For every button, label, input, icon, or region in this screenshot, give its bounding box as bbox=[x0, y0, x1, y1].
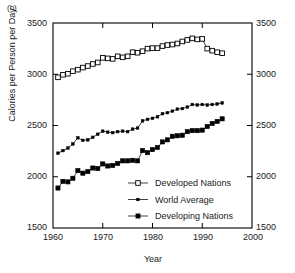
legend-label-1: Developed Nations bbox=[155, 178, 232, 188]
series-1 bbox=[56, 36, 225, 80]
legend: Developed NationsWorld AverageDeveloping… bbox=[122, 172, 246, 227]
legend-label-3: Developing Nations bbox=[155, 211, 234, 221]
series-2 bbox=[57, 102, 224, 155]
figure-panel-b: (b) Calories per Person per Day Year 350… bbox=[0, 0, 295, 273]
plot-canvas: Developed NationsWorld AverageDeveloping… bbox=[0, 0, 295, 273]
legend-label-2: World Average bbox=[155, 195, 214, 205]
